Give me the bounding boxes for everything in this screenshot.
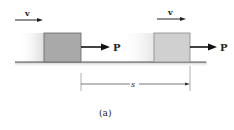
motion-trail-2 (120, 33, 154, 62)
displacement-label: s (131, 80, 135, 89)
force-label-1: P (113, 42, 121, 53)
force-label-2: P (220, 42, 228, 53)
block-final (154, 33, 190, 62)
velocity-arrow-2 (157, 17, 186, 21)
velocity-label-1: v (24, 8, 30, 18)
floor-shadow (15, 62, 207, 67)
velocity-label-2: v (167, 7, 173, 17)
figure-caption: (a) (99, 108, 111, 118)
work-diagram: v v P P s (a) (0, 0, 234, 130)
motion-trail-1 (18, 33, 44, 62)
velocity-arrow-1 (15, 18, 43, 22)
block-initial (44, 33, 81, 62)
force-arrow-1 (81, 44, 110, 51)
force-arrow-2 (190, 44, 217, 51)
displacement-dimension (81, 66, 190, 91)
